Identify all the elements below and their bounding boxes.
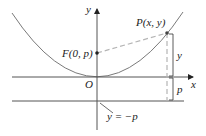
focus-point — [95, 51, 99, 55]
point-p — [165, 31, 169, 35]
point-label: P(x, y) — [135, 16, 166, 29]
distance-y-label: y — [176, 49, 182, 61]
focus-to-point-dashed — [97, 33, 167, 53]
y-axis-label: y — [85, 3, 91, 15]
brace-y — [169, 34, 173, 76]
distance-p-label: p — [176, 83, 183, 95]
focus-label: F(0, p) — [61, 47, 93, 60]
origin-label: O — [85, 78, 93, 90]
x-axis-label: x — [190, 78, 196, 90]
directrix-label: y = −p — [106, 110, 138, 122]
brace-p — [169, 78, 173, 100]
parabola-diagram: y x O F(0, p) P(x, y) y p y = −p — [0, 0, 206, 136]
